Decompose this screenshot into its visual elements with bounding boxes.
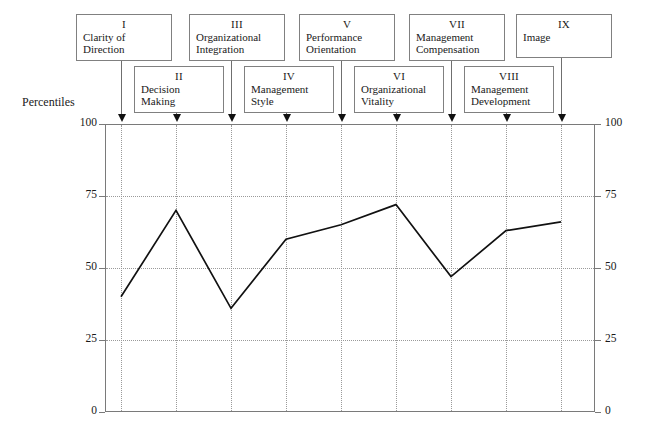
- tick-mark-right-0: [595, 412, 601, 413]
- y-axis-title: Percentiles: [22, 95, 75, 110]
- y-axis-right-tick-0: 0: [605, 404, 649, 416]
- horizontal-gridline-75: [106, 196, 594, 197]
- tick-mark-right-25: [595, 340, 601, 341]
- callout-roman-numeral: I: [83, 18, 165, 31]
- callout-box-iv[interactable]: IVManagement Style: [244, 66, 334, 113]
- callout-label: Performance Orientation: [306, 31, 388, 56]
- callout-box-i[interactable]: IClarity of Direction: [76, 14, 172, 61]
- callout-label: Organizational Integration: [196, 31, 278, 56]
- callout-arrowhead-v: [338, 114, 346, 122]
- tick-mark-right-75: [595, 196, 601, 197]
- callout-label: Clarity of Direction: [83, 31, 165, 56]
- tick-mark-left-25: [99, 340, 105, 341]
- callout-label: Management Development: [471, 83, 547, 108]
- tick-mark-left-75: [99, 196, 105, 197]
- y-axis-left-tick-50: 50: [53, 260, 97, 272]
- tick-mark-right-100: [595, 124, 601, 125]
- y-axis-right-tick-100: 100: [605, 116, 649, 128]
- callout-roman-numeral: II: [141, 70, 217, 83]
- chart-page: IClarity of DirectionIIDecision MakingII…: [0, 0, 649, 434]
- y-axis-left-tick-75: 75: [53, 188, 97, 200]
- callout-roman-numeral: V: [306, 18, 388, 31]
- callout-label: Management Compensation: [416, 31, 498, 56]
- callout-box-v[interactable]: VPerformance Orientation: [299, 14, 395, 61]
- y-axis-left-tick-0: 0: [53, 404, 97, 416]
- callout-arrowhead-ix: [558, 114, 566, 122]
- y-axis-right-tick-75: 75: [605, 188, 649, 200]
- y-axis-left-tick-25: 25: [53, 332, 97, 344]
- tick-mark-left-100: [99, 124, 105, 125]
- callout-box-viii[interactable]: VIIIManagement Development: [464, 66, 554, 113]
- callout-box-iii[interactable]: IIIOrganizational Integration: [189, 14, 285, 61]
- y-axis-left-tick-100: 100: [53, 116, 97, 128]
- callout-roman-numeral: VI: [361, 70, 437, 83]
- callout-box-vii[interactable]: VIIManagement Compensation: [409, 14, 505, 61]
- horizontal-gridline-25: [106, 340, 594, 341]
- callout-roman-numeral: VII: [416, 18, 498, 31]
- callout-leader-line-v: [341, 61, 342, 115]
- callout-arrowhead-iii: [228, 114, 236, 122]
- callout-label: Management Style: [251, 83, 327, 108]
- y-axis-right-tick-50: 50: [605, 260, 649, 272]
- horizontal-gridline-50: [106, 268, 594, 269]
- callout-leader-line-vii: [451, 61, 452, 115]
- callout-arrowhead-vi: [393, 114, 401, 122]
- callout-leader-line-ix: [561, 58, 562, 115]
- callout-arrowhead-iv: [283, 114, 291, 122]
- tick-mark-left-50: [99, 268, 105, 269]
- callout-box-vi[interactable]: VIOrganizational Vitality: [354, 66, 444, 113]
- y-axis-right-tick-25: 25: [605, 332, 649, 344]
- callout-arrowhead-vii: [448, 114, 456, 122]
- callout-roman-numeral: IX: [523, 18, 605, 31]
- callout-roman-numeral: III: [196, 18, 278, 31]
- callout-leader-line-iii: [231, 61, 232, 115]
- callout-arrowhead-ii: [173, 114, 181, 122]
- tick-mark-right-50: [595, 268, 601, 269]
- callout-leader-line-i: [121, 61, 122, 115]
- callout-arrowhead-viii: [503, 114, 511, 122]
- callout-label: Organizational Vitality: [361, 83, 437, 108]
- callout-roman-numeral: IV: [251, 70, 327, 83]
- callout-box-ix[interactable]: IXImage: [516, 14, 612, 58]
- callout-label: Decision Making: [141, 83, 217, 108]
- tick-mark-left-0: [99, 412, 105, 413]
- callout-arrowhead-i: [118, 114, 126, 122]
- callout-box-ii[interactable]: IIDecision Making: [134, 66, 224, 113]
- callout-roman-numeral: VIII: [471, 70, 547, 83]
- callout-label: Image: [523, 31, 605, 44]
